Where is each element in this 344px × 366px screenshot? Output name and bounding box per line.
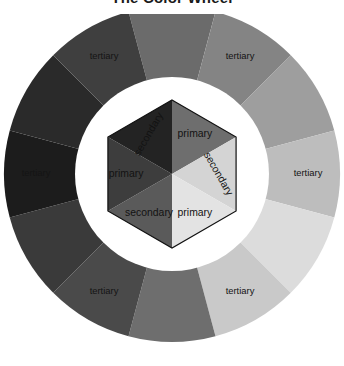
- ring-segment-label: tertiary: [226, 285, 255, 296]
- page-title: The Color Wheel: [0, 0, 344, 6]
- ring-segment-label: tertiary: [226, 50, 255, 61]
- ring-segment-label: tertiary: [90, 285, 119, 296]
- hexagon-wedge-label: primary: [109, 168, 144, 179]
- ring-segment-label: tertiary: [90, 50, 119, 61]
- color-wheel-canvas: tertiarytertiarytertiarytertiarytertiary…: [0, 14, 344, 366]
- ring-segment-label: tertiary: [22, 167, 51, 178]
- hexagon-wedge-label: primary: [178, 128, 213, 139]
- color-wheel-svg: tertiarytertiarytertiarytertiarytertiary…: [0, 14, 344, 366]
- hexagon-wedge-label: secondary: [125, 207, 174, 218]
- ring-segment-label: tertiary: [294, 167, 323, 178]
- hexagon-wedge-label: primary: [178, 207, 213, 218]
- color-wheel-figure: The Color Wheel tertiarytertiarytertiary…: [0, 0, 344, 366]
